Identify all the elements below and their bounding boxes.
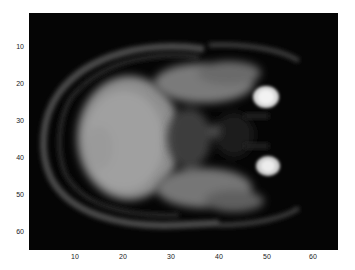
temporal-lobes — [154, 61, 264, 212]
x-tick-label: 10 — [65, 253, 85, 260]
mri-brain-slice — [29, 13, 338, 250]
y-tick-label: 30 — [2, 117, 24, 124]
y-tick-label: 50 — [2, 191, 24, 198]
x-tick-label: 60 — [303, 253, 323, 260]
x-tick-label: 40 — [209, 253, 229, 260]
y-tick-label: 40 — [2, 154, 24, 161]
x-tick-label: 20 — [113, 253, 133, 260]
y-tick-label: 60 — [2, 228, 24, 235]
x-tick-label: 30 — [161, 253, 181, 260]
image-axes — [29, 13, 338, 250]
y-tick-label: 10 — [2, 43, 24, 50]
x-tick-label: 50 — [257, 253, 277, 260]
y-tick-label: 20 — [2, 80, 24, 87]
